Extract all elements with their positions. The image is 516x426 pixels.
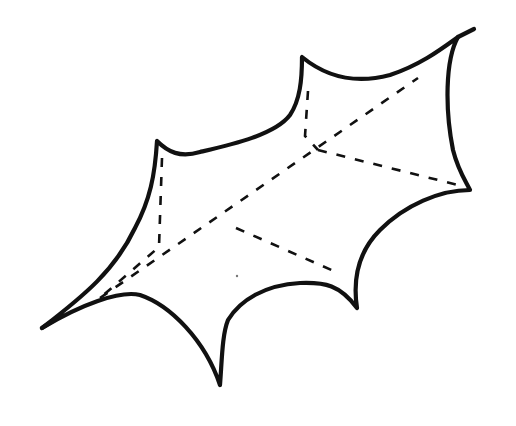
drawing-canvas	[0, 0, 516, 426]
background	[0, 0, 516, 426]
holly-leaf-drawing	[0, 0, 516, 426]
paper-specks	[236, 275, 238, 277]
paper-speck	[236, 275, 238, 277]
